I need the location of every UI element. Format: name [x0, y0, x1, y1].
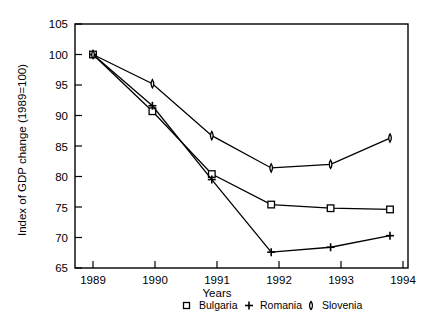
- y-tick-label: 65: [55, 262, 68, 274]
- lens-marker-icon: [270, 164, 273, 172]
- x-tick-label: 1992: [266, 274, 292, 286]
- y-axis-title: Index of GDP change (1989=100): [16, 64, 28, 236]
- y-tick-label: 80: [55, 171, 68, 183]
- x-tick-label: 1993: [328, 274, 354, 286]
- chart-legend: Bulgaria Romania Slovenia: [184, 299, 363, 311]
- legend-square-marker-icon: [184, 303, 190, 309]
- data-point-marker: [387, 206, 394, 213]
- square-marker-icon: [327, 205, 334, 212]
- lens-marker-icon: [151, 80, 154, 88]
- square-marker-icon: [387, 206, 394, 213]
- x-tick-label: 1990: [142, 274, 168, 286]
- lens-marker-icon: [211, 131, 214, 139]
- y-tick-label: 70: [55, 232, 68, 244]
- legend-label: Bulgaria: [199, 299, 238, 311]
- legend-label: Romania: [260, 299, 302, 311]
- x-tick-label: 1994: [390, 274, 416, 286]
- y-tick-label: 75: [55, 202, 68, 214]
- data-point-marker: [327, 205, 334, 212]
- data-point-marker: [92, 50, 95, 58]
- lens-marker-icon: [329, 160, 332, 168]
- data-point-marker: [270, 164, 273, 172]
- lens-marker-icon: [389, 134, 392, 142]
- lens-marker-icon: [92, 50, 95, 58]
- legend-label: Slovenia: [322, 299, 362, 311]
- chart-figure: Index of GDP change (1989=100) 105 100 9…: [0, 0, 426, 325]
- data-point-marker: [211, 131, 214, 139]
- x-tick-label: 1989: [80, 274, 106, 286]
- data-point-marker: [329, 160, 332, 168]
- gdp-index-line-chart: Index of GDP change (1989=100) 105 100 9…: [0, 0, 426, 325]
- square-marker-icon: [268, 201, 275, 208]
- y-tick-label: 95: [55, 79, 68, 91]
- x-axis-title: Years: [203, 287, 232, 299]
- x-tick-label: 1991: [204, 274, 230, 286]
- y-tick-label: 105: [49, 18, 68, 30]
- data-point-marker: [389, 134, 392, 142]
- data-point-marker: [268, 201, 275, 208]
- legend-lens-marker-icon: [310, 302, 313, 310]
- y-tick-label: 90: [55, 110, 68, 122]
- data-point-marker: [151, 80, 154, 88]
- y-tick-label: 85: [55, 141, 68, 153]
- y-tick-label: 100: [49, 49, 68, 61]
